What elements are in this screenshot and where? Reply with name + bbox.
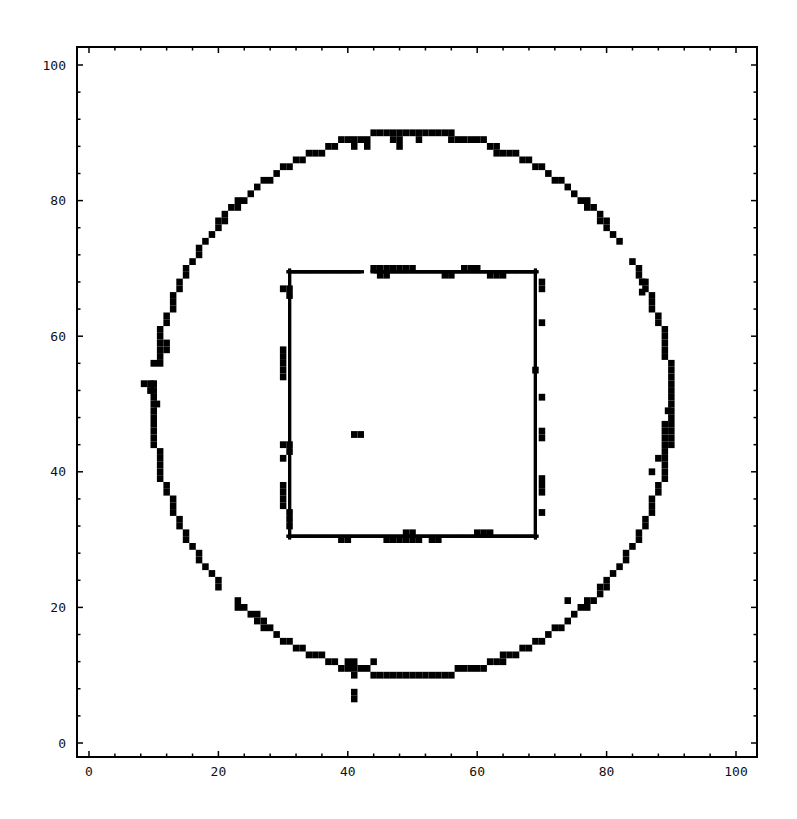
data-point <box>539 509 546 516</box>
axis-ticks <box>77 47 757 757</box>
data-point <box>468 136 475 143</box>
data-point <box>286 523 293 530</box>
data-point <box>506 150 513 157</box>
data-point <box>468 265 475 272</box>
data-point <box>603 218 610 225</box>
data-point <box>151 407 158 414</box>
data-point <box>163 482 170 489</box>
data-point <box>526 645 533 652</box>
data-point <box>351 136 358 143</box>
data-point <box>358 136 365 143</box>
data-point <box>639 279 646 286</box>
data-point <box>222 218 229 225</box>
data-point <box>141 380 148 387</box>
data-point <box>286 285 293 292</box>
data-point <box>487 272 494 279</box>
data-point <box>280 496 287 503</box>
data-point <box>170 509 177 516</box>
data-point <box>629 258 636 265</box>
data-point <box>642 523 649 530</box>
data-point <box>390 265 397 272</box>
data-point <box>416 672 423 679</box>
data-point <box>506 652 513 659</box>
data-point <box>157 340 164 347</box>
data-point <box>539 428 546 435</box>
data-point <box>286 638 293 645</box>
data-point <box>154 401 161 408</box>
data-point <box>448 129 455 136</box>
data-point <box>157 333 164 340</box>
data-point <box>364 143 371 150</box>
data-point <box>254 611 261 618</box>
data-point <box>668 394 675 401</box>
data-point <box>151 360 158 367</box>
data-point <box>345 658 352 665</box>
data-point <box>377 265 384 272</box>
data-point <box>235 204 242 211</box>
data-point <box>351 431 358 438</box>
data-point <box>312 150 319 157</box>
data-point <box>655 489 662 496</box>
data-point <box>474 136 481 143</box>
x-tick-label: 40 <box>340 764 356 779</box>
data-point <box>325 658 332 665</box>
data-point <box>480 665 487 672</box>
data-point <box>493 658 500 665</box>
data-point <box>183 272 190 279</box>
data-point <box>616 563 623 570</box>
data-point <box>636 265 643 272</box>
plot-frame <box>77 47 757 757</box>
data-point <box>442 129 449 136</box>
data-point <box>662 340 669 347</box>
data-point <box>273 631 280 638</box>
data-point <box>662 428 669 435</box>
data-point <box>390 136 397 143</box>
data-point <box>396 536 403 543</box>
data-point <box>370 129 377 136</box>
data-point <box>215 577 222 584</box>
data-point <box>539 319 546 326</box>
data-point <box>513 150 520 157</box>
data-point <box>500 150 507 157</box>
y-axis-tick-labels: 020406080100 <box>43 58 66 751</box>
data-point <box>215 224 222 231</box>
data-point <box>655 313 662 320</box>
data-point <box>662 421 669 428</box>
data-point <box>565 597 572 604</box>
data-point <box>280 489 287 496</box>
data-point <box>183 536 190 543</box>
data-point <box>261 177 268 184</box>
data-point <box>196 245 203 252</box>
data-point <box>403 536 410 543</box>
data-point <box>280 455 287 462</box>
data-point <box>455 136 462 143</box>
data-point <box>668 401 675 408</box>
data-point <box>261 618 268 625</box>
data-point <box>176 285 183 292</box>
data-point <box>597 211 604 218</box>
data-point <box>280 360 287 367</box>
data-point <box>474 665 481 672</box>
data-point <box>157 455 164 462</box>
data-point <box>390 536 397 543</box>
data-point <box>280 163 287 170</box>
data-point <box>480 136 487 143</box>
y-tick-label: 20 <box>50 600 66 615</box>
data-point <box>649 292 656 299</box>
data-point <box>665 407 672 414</box>
data-point <box>351 672 358 679</box>
data-point <box>668 367 675 374</box>
data-point <box>151 394 158 401</box>
data-point <box>286 509 293 516</box>
data-point <box>163 346 170 353</box>
data-point <box>151 441 158 448</box>
data-point <box>151 428 158 435</box>
data-point <box>403 529 410 536</box>
data-point <box>571 611 578 618</box>
y-tick-label: 60 <box>50 329 66 344</box>
data-point <box>196 557 203 564</box>
data-point <box>280 374 287 381</box>
data-point <box>403 265 410 272</box>
data-point <box>293 157 300 164</box>
data-point <box>532 367 539 374</box>
